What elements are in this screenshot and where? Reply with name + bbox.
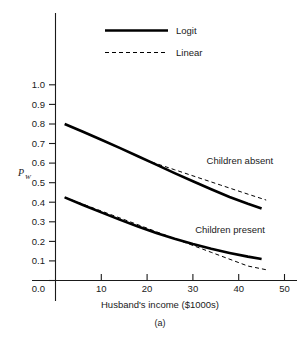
- x-tick-label-20: 20: [142, 283, 153, 294]
- annotation-children-absent: Children absent: [207, 155, 274, 166]
- x-tick-labels: 10 20 30 40 50: [96, 283, 290, 294]
- y-tick-label-0.8: 0.8: [32, 118, 45, 129]
- x-tick-label-10: 10: [96, 283, 107, 294]
- y-tick-marks: [49, 85, 56, 281]
- y-tick-label-0.9: 0.9: [32, 99, 45, 110]
- figure-caption: (a): [155, 318, 166, 328]
- annotations: Children absent Children present: [195, 155, 273, 235]
- y-tick-label-0.6: 0.6: [32, 157, 45, 168]
- y-tick-label-0.2: 0.2: [32, 236, 45, 247]
- y-tick-label-0.4: 0.4: [32, 197, 45, 208]
- legend-label-logit: Logit: [176, 25, 197, 36]
- y-tick-label-0.1: 0.1: [32, 255, 45, 266]
- y-tick-labels: 0.0 0.1 0.2 0.3 0.4 0.5 0.6 0.7 0.8 0.9 …: [32, 79, 45, 293]
- chart-figure: 0.0 0.1 0.2 0.3 0.4 0.5 0.6 0.7 0.8 0.9 …: [0, 0, 308, 337]
- y-tick-label-0.3: 0.3: [32, 216, 45, 227]
- y-axis-title: P W: [17, 167, 32, 181]
- series-logit-children-absent: [65, 124, 262, 209]
- legend: Logit Linear: [105, 25, 202, 58]
- x-tick-label-30: 30: [188, 283, 199, 294]
- y-axis-title-p: P: [17, 167, 24, 178]
- x-tick-label-40: 40: [233, 283, 244, 294]
- y-tick-label-1.0: 1.0: [32, 79, 45, 90]
- legend-label-linear: Linear: [176, 47, 202, 58]
- series-linear-children-absent: [152, 162, 267, 200]
- x-axis-title: Husband's income ($1000s): [101, 299, 219, 310]
- annotation-children-present: Children present: [195, 224, 265, 235]
- x-tick-marks: [101, 274, 284, 281]
- x-tick-label-50: 50: [279, 283, 290, 294]
- line-chart: 0.0 0.1 0.2 0.3 0.4 0.5 0.6 0.7 0.8 0.9 …: [0, 0, 308, 337]
- y-tick-label-0.7: 0.7: [32, 138, 45, 149]
- data-series-group: [65, 124, 267, 270]
- y-tick-label-0.0: 0.0: [32, 283, 45, 294]
- y-tick-label-0.5: 0.5: [32, 177, 45, 188]
